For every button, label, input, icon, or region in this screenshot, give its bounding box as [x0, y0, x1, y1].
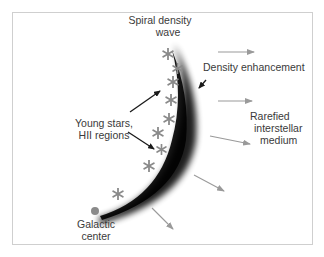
galactic-center-dot [91, 207, 99, 215]
label-line: wave [120, 26, 200, 38]
label-line: Galactic [74, 218, 118, 230]
star-icon [113, 189, 123, 200]
spiral-density-wave-label: Spiral density wave [120, 14, 200, 38]
label-line: Spiral density [120, 14, 200, 26]
star-icon [144, 161, 154, 172]
density-enhancement-label: Density enhancement [203, 61, 305, 73]
flow-arrow-icon [194, 175, 224, 191]
label-line: center [74, 230, 118, 242]
label-line: HII regions [72, 129, 136, 141]
label-line: Young stars, [72, 117, 136, 129]
young-stars-label: Young stars, HII regions [72, 117, 136, 141]
flow-arrows [152, 52, 254, 229]
star-icon [166, 95, 176, 106]
label-line: Rarefied [246, 110, 316, 122]
pointer-arrow-icon [199, 80, 206, 88]
label-line: medium [246, 134, 316, 146]
pointer-arrow-icon [130, 91, 160, 112]
label-line: interstellar [246, 122, 316, 134]
star-icon [157, 144, 166, 154]
flow-arrow-icon [152, 208, 173, 229]
star-icon [168, 77, 178, 88]
star-icon [164, 114, 174, 125]
star-icon [163, 49, 173, 60]
galactic-center-label: Galactic center [74, 218, 118, 242]
rarefied-medium-label: Rarefied interstellar medium [246, 110, 316, 146]
flow-arrow-icon [210, 136, 250, 144]
star-icon [153, 128, 163, 139]
